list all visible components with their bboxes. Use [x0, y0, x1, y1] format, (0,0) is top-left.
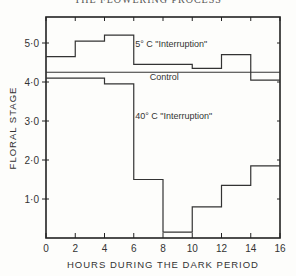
axis-ticks [42, 17, 280, 238]
series-lines [46, 35, 280, 232]
floral-stage-chart: 02468101214161·02·03·04·05·0 HOURS DURIN… [0, 0, 296, 276]
x-tick-label: 2 [72, 243, 78, 254]
x-tick-label: 14 [245, 243, 257, 254]
x-tick-label: 16 [274, 243, 286, 254]
x-axis-title: HOURS DURING THE DARK PERIOD [67, 259, 259, 270]
y-tick-label: 1·0 [25, 194, 40, 205]
series-annotations: 5° C "Interruption"Control40° C "Interru… [135, 39, 212, 121]
x-tick-label: 6 [131, 243, 137, 254]
axis-labels: 02468101214161·02·03·04·05·0 [25, 38, 286, 255]
x-tick-label: 4 [102, 243, 108, 254]
y-tick-label: 5·0 [25, 38, 40, 49]
series-40c-interruption [46, 78, 280, 232]
y-tick-label: 3·0 [25, 116, 40, 127]
y-tick-label: 4·0 [25, 77, 40, 88]
annotation-40c: 40° C "Interruption" [135, 111, 212, 121]
y-tick-label: 2·0 [25, 155, 40, 166]
x-tick-label: 10 [187, 243, 199, 254]
x-tick-label: 12 [216, 243, 228, 254]
y-axis-title: FLORAL STAGE [7, 87, 18, 170]
annotation-control: Control [150, 72, 179, 82]
x-tick-label: 0 [43, 243, 49, 254]
annotation-5c: 5° C "Interruption" [135, 39, 207, 49]
x-tick-label: 8 [160, 243, 166, 254]
